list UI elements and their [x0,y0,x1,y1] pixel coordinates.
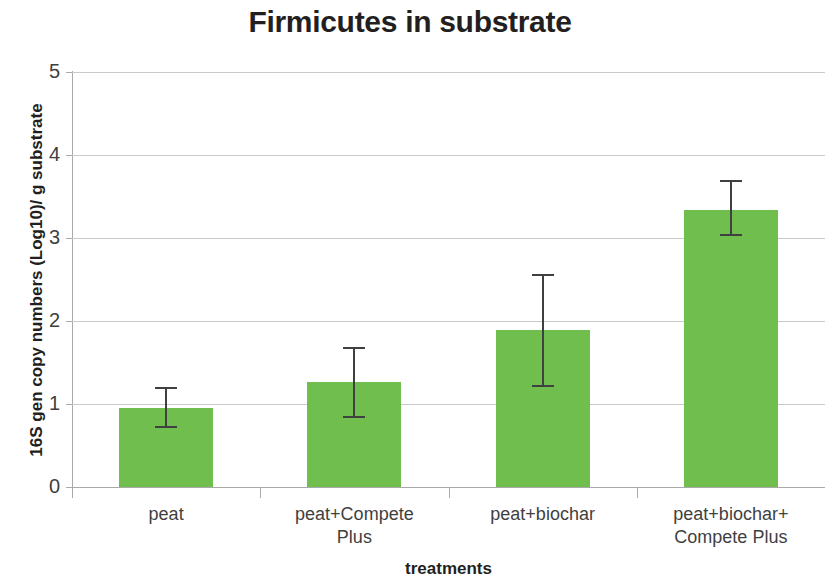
y-axis-tick-label: 4 [36,144,60,164]
y-axis-title: 16S gen copy numbers (Log10)/ g substrat… [27,70,47,490]
x-axis-category-label: peat+biochar [449,503,637,526]
error-bar-cap-lower [720,234,742,236]
error-bar-line [353,347,355,418]
x-axis-category-label: peat+biochar+Compete Plus [637,503,825,549]
y-axis-tick-label: 2 [36,310,60,330]
error-bar-line [165,387,167,428]
error-bar [151,387,181,428]
error-bar-line [542,274,544,387]
x-axis-category-label-line: peat+biochar [449,503,637,526]
x-axis-tick [260,487,261,498]
x-axis-tick-origin [72,487,73,498]
x-axis-category-label-line: peat+Compete [260,503,448,526]
error-bar-cap-lower [532,385,554,387]
error-bar-line [730,180,732,236]
x-axis-category-label: peat+CompetePlus [260,503,448,549]
error-bar [339,347,369,418]
plot-area [72,72,825,487]
error-bar-cap-upper [532,274,554,276]
error-bar-cap-upper [720,180,742,182]
error-bar-cap-lower [343,416,365,418]
x-axis-tick [449,487,450,498]
x-axis-category-label-line: Compete Plus [637,526,825,549]
error-bar-cap-upper [155,387,177,389]
y-axis-tick-label: 3 [36,227,60,247]
error-bar [716,180,746,236]
x-axis-tick [637,487,638,498]
x-axis-category-label-line: peat [72,503,260,526]
x-axis-category-label-line: peat+biochar+ [637,503,825,526]
x-axis-category-label: peat [72,503,260,526]
y-axis-tick-label: 0 [36,476,60,496]
x-axis-title: treatments [72,559,825,579]
bar [684,210,778,487]
gridline [72,72,825,73]
error-bar-cap-lower [155,426,177,428]
gridline [72,155,825,156]
y-axis-tick-label: 1 [36,393,60,413]
chart-title: Firmicutes in substrate [60,5,760,39]
error-bar-cap-upper [343,347,365,349]
y-axis-tick-label: 5 [36,61,60,81]
bar-chart: Firmicutes in substrate 16S gen copy num… [0,0,825,585]
error-bar [528,274,558,387]
x-axis-category-label-line: Plus [260,526,448,549]
